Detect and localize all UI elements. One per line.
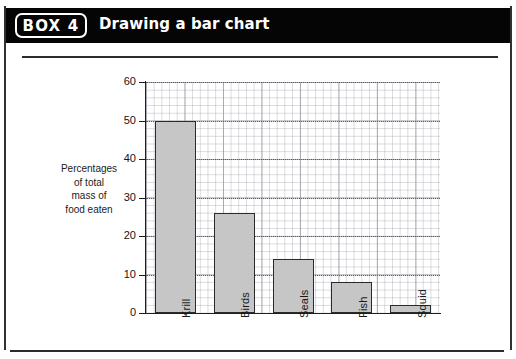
- x-tick-label-krill: Krill: [180, 299, 192, 318]
- y-tick-label-50: 50: [110, 115, 136, 126]
- y-tick-30: [139, 198, 146, 199]
- y-axis-label-line-1: Percentages: [58, 162, 120, 176]
- gridline-y-60: [146, 82, 440, 83]
- bar-krill: [155, 121, 196, 314]
- y-axis-label: Percentages of total mass of food eaten: [58, 162, 120, 216]
- box-title: Drawing a bar chart: [99, 15, 270, 33]
- box-number-badge: BOX 4: [15, 13, 87, 38]
- y-tick-10: [139, 275, 146, 276]
- rule-bottom: [10, 350, 504, 352]
- x-tick-label-birds: Birds: [239, 292, 251, 318]
- y-tick-40: [139, 159, 146, 160]
- x-tick-label-seals: Seals: [298, 289, 310, 318]
- y-tick-label-30: 30: [110, 192, 136, 203]
- y-tick-label-60: 60: [110, 76, 136, 87]
- y-tick-20: [139, 236, 146, 237]
- y-tick-label-20: 20: [110, 230, 136, 241]
- y-axis-label-line-4: food eaten: [58, 203, 120, 217]
- y-axis-label-line-2: of total: [58, 176, 120, 190]
- y-tick-label-0: 0: [110, 307, 136, 318]
- box-page: BOX 4 Drawing a bar chart Percentages of…: [0, 0, 516, 359]
- box-header-bar: BOX 4 Drawing a bar chart: [6, 8, 510, 43]
- y-tick-60: [139, 82, 146, 83]
- y-tick-label-40: 40: [110, 153, 136, 164]
- x-tick-label-squid: Squid: [416, 289, 428, 318]
- y-tick-50: [139, 121, 146, 122]
- x-tick-label-fish: Fish: [357, 296, 369, 318]
- y-tick-label-10: 10: [110, 269, 136, 280]
- y-tick-0: [139, 313, 146, 314]
- bar-chart-figure: Percentages of total mass of food eaten …: [0, 58, 516, 350]
